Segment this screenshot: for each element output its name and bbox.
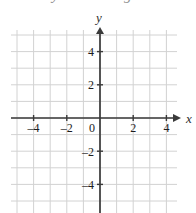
y-tick-label: 2 xyxy=(88,78,94,92)
x-tick-label: 2 xyxy=(130,121,136,135)
axis-lines xyxy=(11,27,181,213)
x-tick-label: 0 xyxy=(89,121,95,135)
x-tick-label: –2 xyxy=(60,121,73,135)
y-tick-label: –4 xyxy=(81,178,94,192)
y-tick-label: 4 xyxy=(88,45,94,59)
x-tick-label: –4 xyxy=(27,121,40,135)
coordinate-plane-figure: –4–202442–2–4 y x xyxy=(0,0,196,213)
coordinate-plane-svg: –4–202442–2–4 y x xyxy=(0,0,196,213)
x-axis-arrowhead xyxy=(173,114,181,122)
y-axis-label: y xyxy=(94,10,102,25)
x-tick-label: 4 xyxy=(163,121,169,135)
y-tick-label: –2 xyxy=(81,145,94,159)
x-axis-label: x xyxy=(185,111,192,126)
y-axis-arrowhead xyxy=(96,27,104,34)
